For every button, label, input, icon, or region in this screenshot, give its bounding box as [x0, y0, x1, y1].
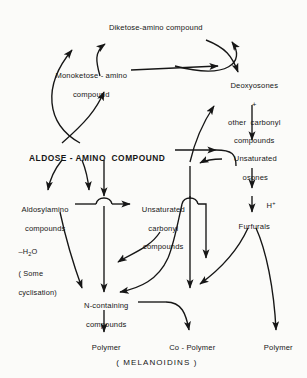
node-aldosylamino-line2: compounds	[25, 224, 66, 233]
arrow-aldose-to-aldosylamino	[48, 160, 62, 190]
node-unsaturated-carbonyl-line1: Unsaturated	[142, 205, 185, 214]
arrow-monoketose-to-deoxyosones	[131, 66, 218, 70]
node-unsaturated-osones-line2: osones	[243, 173, 268, 182]
cyclisation-line1: ( Some	[18, 269, 43, 278]
node-deoxyosones-line3: other carbonyl	[228, 118, 280, 127]
node-unsaturated-carbonyl-compounds: Unsaturated carbonyl compounds	[128, 196, 194, 251]
reaction-pathway-diagram	[0, 0, 307, 378]
node-furfurals: Furfurals	[222, 213, 282, 231]
node-aldose-amino-compound: ALDOSE - AMINO COMPOUND	[12, 145, 177, 163]
node-unsaturated-osones: Unsaturated osones	[212, 145, 294, 182]
arrow-right-to-n-containing	[120, 258, 168, 292]
node-unsaturated-osones-line1: Unsaturated	[234, 154, 277, 163]
figure-caption-label: ( MELANOIDINS )	[116, 358, 197, 367]
node-monoketose-amino-compound: Monoketose - amino compound	[34, 62, 144, 99]
figure-caption: ( MELANOIDINS )	[0, 349, 307, 367]
node-furfurals-label: Furfurals	[239, 222, 270, 231]
node-n-containing-line2: compounds	[86, 320, 127, 329]
node-aldose-label: ALDOSE - AMINO COMPOUND	[29, 153, 165, 163]
dehydration-h-label: –H	[18, 247, 28, 256]
node-unsaturated-carbonyl-line3: compounds	[143, 242, 184, 251]
node-n-containing-line1: N-containing	[84, 301, 128, 310]
node-monoketose-line2: compound	[73, 90, 110, 99]
node-diketose-amino-compound: Diketose-amino compound	[0, 14, 307, 32]
bridge-hop-left	[96, 198, 112, 204]
cyclisation-line2: cyclisation)	[18, 288, 56, 297]
node-deoxyosones: Deoxyosones + other carbonyl compounds	[202, 72, 302, 146]
node-aldosylamino-compounds: Aldosylamino compounds	[10, 196, 76, 233]
dehydration-o-label: O	[31, 247, 37, 256]
arrow-n-containing-to-copolymer	[166, 302, 189, 330]
arrow-furfurals-to-polymer	[256, 228, 276, 330]
node-unsaturated-carbonyl-line2: carbonyl	[148, 224, 178, 233]
arrow-right-vertical-descend	[198, 204, 206, 258]
node-monoketose-line1: Monoketose - amino	[56, 71, 128, 80]
node-deoxyosones-line2: +	[252, 100, 257, 109]
node-deoxyosones-line1: Deoxyosones	[230, 81, 278, 90]
arrow-furfurals-to-copolymer	[200, 228, 248, 284]
node-n-containing-compounds: N-containing compounds	[66, 292, 142, 329]
annotation-dehydration: –H2O ( Some cyclisation)	[14, 238, 94, 297]
proton-charge-label: +	[272, 200, 275, 206]
arrow-aldose-fork-right	[82, 160, 89, 190]
annotation-proton: H+	[262, 190, 292, 210]
node-diketose-label: Diketose-amino compound	[109, 23, 203, 32]
node-aldosylamino-line1: Aldosylamino	[22, 205, 69, 214]
